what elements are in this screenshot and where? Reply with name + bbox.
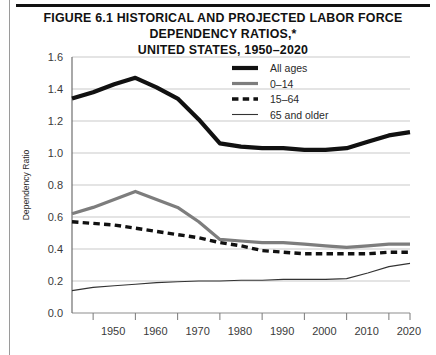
x-tick-label: 1980	[228, 325, 252, 336]
x-tick-label-group: 19501960197019801990200020102020	[101, 325, 421, 336]
x-tick-label: 1970	[185, 325, 209, 336]
gridlines-group	[72, 57, 410, 313]
data-series-group	[72, 78, 410, 291]
y-tick-label: 1.6	[48, 51, 63, 63]
x-tick-group	[93, 313, 410, 320]
x-tick-label: 2000	[312, 325, 336, 336]
x-tick-label: 1990	[270, 325, 294, 336]
y-tick-label: 1.2	[48, 115, 63, 127]
figure-title-line-1: FIGURE 6.1 HISTORICAL AND PROJECTED LABO…	[16, 10, 430, 42]
y-tick-label: 1.0	[48, 147, 63, 159]
y-tick-label: 0.4	[48, 243, 63, 255]
figure-container: FIGURE 6.1 HISTORICAL AND PROJECTED LABO…	[0, 0, 436, 355]
series-line	[72, 263, 410, 290]
x-tick-label: 2010	[354, 325, 378, 336]
x-tick-label: 1960	[143, 325, 167, 336]
y-axis-label: Dependency Ratio	[21, 149, 31, 220]
y-tick-label: 0.6	[48, 211, 63, 223]
series-line	[72, 191, 410, 247]
chart-plot-area: 0.00.20.40.60.81.01.21.41.6 195019601970…	[0, 46, 436, 336]
chart-legend: All ages0–1415–6465 and older	[232, 62, 329, 121]
legend-label: 0–14	[270, 78, 294, 90]
x-tick-label: 2020	[397, 325, 421, 336]
y-tick-label: 0.8	[48, 179, 63, 191]
legend-label: All ages	[270, 62, 307, 74]
y-tick-label-group: 0.00.20.40.60.81.01.21.41.6	[48, 51, 63, 319]
legend-label: 15–64	[270, 93, 299, 105]
line-chart: 0.00.20.40.60.81.01.21.41.6 195019601970…	[0, 46, 436, 336]
x-tick-label: 1950	[101, 325, 125, 336]
y-tick-label: 1.4	[48, 83, 63, 95]
legend-label: 65 and older	[270, 109, 329, 121]
title-top-rule	[16, 4, 430, 7]
y-tick-label: 0.0	[48, 307, 63, 319]
y-tick-label: 0.2	[48, 275, 63, 287]
